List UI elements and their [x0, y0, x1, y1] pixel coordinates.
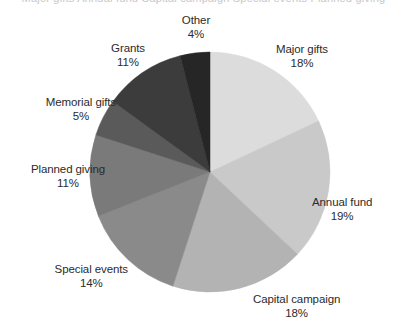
pie-label-name: Grants: [111, 42, 145, 56]
pie-label-percent: 11%: [31, 177, 105, 191]
pie-label-name: Planned giving: [31, 163, 105, 177]
pie-label-name: Major gifts: [276, 43, 328, 57]
pie-label-percent: 5%: [46, 110, 116, 124]
chart-canvas: Major gifts Annual fund Capital campaign…: [0, 0, 407, 334]
pie-label-memorial-gifts: Memorial gifts5%: [46, 96, 116, 123]
pie-label-other: Other4%: [182, 14, 210, 41]
pie-label-percent: 11%: [111, 56, 145, 70]
pie-label-grants: Grants11%: [111, 42, 145, 69]
pie-label-name: Capital campaign: [253, 293, 340, 307]
pie-label-major-gifts: Major gifts18%: [276, 43, 328, 70]
pie-label-annual-fund: Annual fund19%: [312, 196, 372, 223]
pie-label-percent: 4%: [182, 28, 210, 42]
pie-label-percent: 18%: [253, 307, 340, 321]
pie-label-percent: 14%: [55, 277, 128, 291]
pie-label-capital-campaign: Capital campaign18%: [253, 293, 340, 320]
pie-label-name: Special events: [55, 263, 128, 277]
pie-label-planned-giving: Planned giving11%: [31, 163, 105, 190]
pie-label-name: Memorial gifts: [46, 96, 116, 110]
pie-label-special-events: Special events14%: [55, 263, 128, 290]
pie-label-percent: 19%: [312, 210, 372, 224]
pie-label-name: Annual fund: [312, 196, 372, 210]
pie-label-percent: 18%: [276, 57, 328, 71]
pie-label-name: Other: [182, 14, 210, 28]
